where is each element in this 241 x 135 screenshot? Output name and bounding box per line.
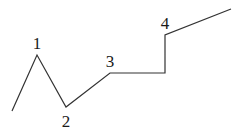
zigzag-path (12, 9, 231, 111)
label-3: 3 (106, 52, 115, 71)
label-2: 2 (62, 112, 71, 131)
label-4: 4 (161, 14, 170, 33)
path-diagram: 1 2 3 4 (0, 0, 241, 135)
label-1: 1 (33, 34, 42, 53)
